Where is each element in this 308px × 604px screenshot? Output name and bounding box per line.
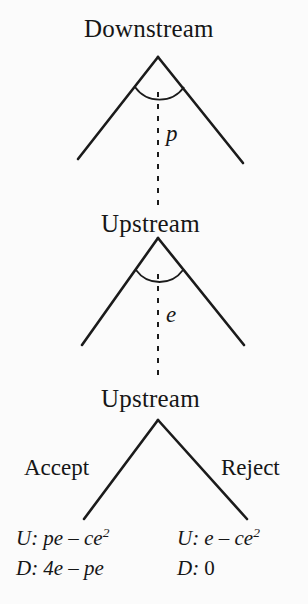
- payoff-block-reject: U:e – ce2 D:0: [177, 524, 260, 584]
- payoff-expression: e – ce2: [199, 526, 260, 550]
- payoff-player-tag: D:: [177, 556, 199, 580]
- node-label-downstream: Downstream: [84, 16, 214, 41]
- node-downstream-branches: [78, 57, 243, 163]
- payoff-player-tag: U:: [177, 526, 199, 550]
- branch-downstream-right: [158, 57, 243, 163]
- payoff-exponent: 2: [103, 525, 110, 540]
- angle-arc-upstream-effort: [136, 270, 183, 282]
- payoff-block-accept: U:pe – ce2 D:4e – pe: [16, 524, 109, 584]
- branch-label-accept: Accept: [24, 456, 89, 479]
- edge-variable-p: p: [166, 122, 178, 145]
- branch-downstream-left: [78, 57, 158, 159]
- node-upstream-effort-branches: [82, 238, 244, 345]
- angle-arc-downstream: [135, 87, 184, 100]
- payoff-player-tag: D:: [16, 556, 38, 580]
- payoff-exponent: 2: [253, 525, 260, 540]
- payoff-player-tag: U:: [16, 526, 38, 550]
- branch-upstream-effort-right: [158, 238, 244, 345]
- payoff-expression: 4e – pe: [38, 556, 104, 580]
- payoff-expression: 0: [199, 556, 215, 580]
- payoff-line: D:4e – pe: [16, 554, 109, 584]
- branch-label-reject: Reject: [221, 456, 280, 479]
- payoff-line: U:pe – ce2: [16, 524, 109, 554]
- edge-variable-e: e: [166, 303, 176, 326]
- node-label-upstream-effort: Upstream: [101, 211, 200, 236]
- branch-upstream-effort-left: [82, 238, 158, 345]
- branch-accept: [84, 420, 158, 519]
- payoff-line: U:e – ce2: [177, 524, 260, 554]
- node-label-upstream-decision: Upstream: [101, 386, 200, 411]
- payoff-expression: pe – ce2: [38, 526, 109, 550]
- payoff-line: D:0: [177, 554, 260, 584]
- game-tree-canvas: [0, 0, 308, 604]
